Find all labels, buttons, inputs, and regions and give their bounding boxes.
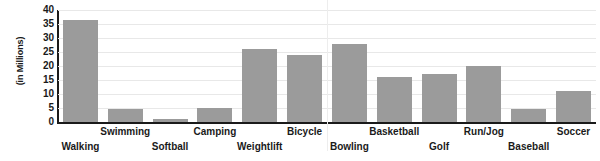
bar[interactable] (511, 109, 546, 122)
bar-series (58, 10, 596, 122)
x-axis-tick-label: Walking (61, 142, 99, 152)
bar[interactable] (242, 49, 277, 122)
bar-slot (551, 10, 596, 122)
x-label-slot: Softball (148, 124, 193, 161)
bar-slot (417, 10, 462, 122)
y-axis-tick-label: 25 (43, 47, 54, 57)
y-axis-tick-label: 5 (48, 103, 54, 113)
bar-slot (103, 10, 148, 122)
x-axis-tick-label: Run/Jog (464, 127, 504, 137)
bar-slot (58, 10, 103, 122)
y-axis-tick-label: 15 (43, 75, 54, 85)
bar[interactable] (287, 55, 322, 122)
y-axis-tick-label: 20 (43, 61, 54, 71)
bar[interactable] (63, 20, 98, 122)
y-axis-tick-label: 40 (43, 5, 54, 15)
x-axis-tick-label: Basketball (369, 127, 419, 137)
x-axis-tick-label: Softball (152, 142, 189, 152)
x-axis-tick-label: Soccer (557, 127, 590, 137)
x-label-slot: Walking (58, 124, 103, 161)
bar-slot (192, 10, 237, 122)
bar[interactable] (153, 119, 188, 122)
plot-area (58, 10, 596, 122)
y-axis-title: (in Millions) (10, 0, 30, 122)
x-label-slot: Camping (192, 124, 237, 161)
bar-slot (327, 10, 372, 122)
y-axis-tick-label: 30 (43, 33, 54, 43)
y-axis-tick-labels: 0510152025303540 (30, 0, 56, 122)
bar-chart: (in Millions) 0510152025303540 WalkingSw… (0, 0, 600, 161)
y-axis-title-text: (in Millions) (15, 37, 25, 86)
x-axis-tick-label: Bicycle (287, 127, 322, 137)
bar[interactable] (466, 66, 501, 122)
x-label-slot: Run/Jog (461, 124, 506, 161)
x-axis-tick-label: Weightlift (237, 142, 282, 152)
x-label-slot: Golf (417, 124, 462, 161)
y-axis-tick-label: 0 (48, 117, 54, 127)
x-label-slot: Weightlift (237, 124, 282, 161)
x-label-slot: Soccer (551, 124, 596, 161)
x-axis-tick-label: Golf (429, 142, 449, 152)
x-axis-tick-label: Bowling (330, 142, 369, 152)
x-label-slot: Swimming (103, 124, 148, 161)
x-axis-tick-label: Baseball (508, 142, 549, 152)
x-label-slot: Baseball (506, 124, 551, 161)
bar[interactable] (197, 108, 232, 122)
bar-slot (148, 10, 193, 122)
y-axis-tick-label: 10 (43, 89, 54, 99)
bar-slot (372, 10, 417, 122)
bar[interactable] (422, 74, 457, 122)
bar-slot (282, 10, 327, 122)
y-axis-tick-label: 35 (43, 19, 54, 29)
bar[interactable] (377, 77, 412, 122)
bar[interactable] (108, 109, 143, 122)
x-label-slot: Bowling (327, 124, 372, 161)
bar-slot (461, 10, 506, 122)
x-label-slot: Basketball (372, 124, 417, 161)
x-label-slot: Bicycle (282, 124, 327, 161)
x-axis-tick-label: Camping (194, 127, 237, 137)
x-axis-category-labels: WalkingSwimmingSoftballCampingWeightlift… (58, 124, 596, 161)
bar-slot (506, 10, 551, 122)
bar[interactable] (556, 91, 591, 122)
bar-slot (237, 10, 282, 122)
bar[interactable] (332, 44, 367, 122)
x-axis-tick-label: Swimming (100, 127, 150, 137)
